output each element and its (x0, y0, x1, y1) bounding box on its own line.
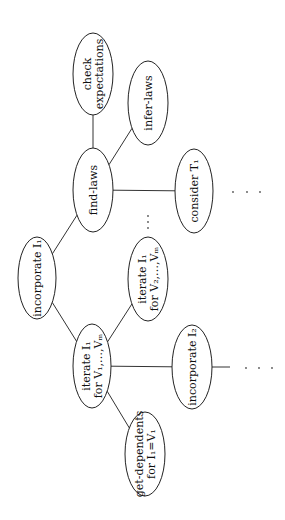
node-label-line: find-laws (87, 164, 100, 215)
node-find-laws: find-laws (73, 148, 113, 232)
ellipsis-dot (147, 227, 149, 229)
node-label-line: incorporate I₁ (31, 239, 44, 316)
ellipsis-after-incorporate-i2 (245, 367, 273, 369)
ellipsis-dot (246, 191, 248, 193)
edge-find-laws-to-incorporate-i1 (52, 215, 77, 254)
ellipsis-dot (232, 191, 234, 193)
node-label-line: for I₁=V₁ (145, 429, 158, 479)
node-label-line: expectations (93, 38, 106, 109)
ellipsis-dot (271, 367, 273, 369)
edge-find-laws-to-infer-laws (109, 128, 132, 164)
ellipsis-dot (245, 367, 247, 369)
node-check-expectations: checkexpectations (73, 33, 113, 115)
node-incorporate-i1: incorporate I₁ (18, 237, 56, 319)
edge-iterate-i1-v1-to-iterate-i1-v2 (108, 304, 132, 342)
edge-incorporate-i1-to-iterate-i1-v1 (52, 302, 76, 341)
node-label-line: for V₂,…,Vₘ (148, 247, 161, 312)
node-iterate-i1-v2: iterate I₁for V₂,…,Vₘ (128, 237, 168, 321)
edge-find-laws-to-consider-t1 (113, 190, 175, 191)
edge-iterate-i1-v1-to-get-dependents (107, 391, 129, 428)
ellipsis-dot (259, 191, 261, 193)
node-iterate-i1-v1: iterate I₁for V₁,…,Vₘ (73, 324, 111, 408)
ellipsis-dot (258, 367, 260, 369)
node-label-line: infer-laws (142, 75, 155, 131)
node-consider-t1: consider T₁ (175, 149, 213, 233)
ellipsis-dot (147, 215, 149, 217)
nodes: checkexpectationsinfer-lawsfind-lawscons… (18, 33, 213, 497)
node-incorporate-i2: incorporate I₂ (172, 325, 212, 409)
ellipsis-after-consider-t1 (232, 191, 261, 193)
node-label-line: consider T₁ (188, 159, 201, 222)
node-get-dependents: get-dependentsfor I₁=V₁ (125, 410, 165, 497)
node-infer-laws: infer-laws (128, 61, 168, 145)
ellipsis-between-iterates (147, 215, 149, 229)
ellipsis-dot (147, 221, 149, 223)
tree-diagram: checkexpectationsinfer-lawsfind-lawscons… (0, 0, 285, 520)
edge-iterate-i1-v1-to-incorporate-i2 (111, 366, 172, 367)
node-label-line: incorporate I₂ (186, 328, 199, 405)
node-label-line: for V₁,…,Vₘ (92, 334, 105, 399)
